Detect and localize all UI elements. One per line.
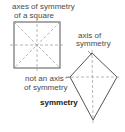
square-label-line2: of a square: [14, 12, 54, 20]
kite-figure: [65, 50, 121, 123]
diagram-title: symmetry: [40, 98, 78, 107]
kite-axis-label-line2: symmetry: [76, 40, 111, 48]
square-figure: [10, 19, 64, 71]
square-label-line1: axes of symmetry: [12, 3, 75, 11]
not-axis-label-line2: of symmetry: [24, 84, 68, 92]
not-axis-label-line1: not an axis: [25, 75, 64, 83]
